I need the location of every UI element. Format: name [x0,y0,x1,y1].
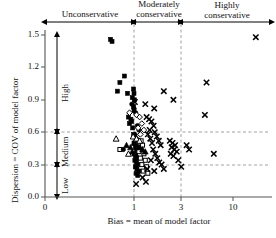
data-point [253,34,258,39]
chart-figure: 1.5 1.2 0.9 0.6 0.3 0.0 0 1 3 10 Bias = … [0,0,276,238]
data-point [118,81,122,85]
data-point [132,87,136,91]
data-points [109,34,259,186]
y-tick-label: 1.5 [20,29,39,39]
zone-label-low: Low [60,178,70,195]
data-point [126,91,130,95]
x-tick-label: 0 [35,202,55,212]
data-point [127,122,131,126]
zone-label-low-wrap: Low [60,0,72,238]
data-point [124,142,130,147]
series-x-marker [132,34,258,186]
y-tick-label: 0.0 [20,191,39,201]
data-point [202,112,207,117]
x-tick-label: 10 [223,202,243,212]
data-point [121,147,125,151]
x-tick-label: 3 [171,202,191,212]
x-tick-label: 1 [124,202,144,212]
data-point [136,173,140,177]
y-tick-label: 0.3 [20,159,39,169]
data-point [171,97,176,102]
data-point [113,136,119,141]
data-point [132,106,136,110]
data-point [110,39,114,43]
data-point [139,121,145,127]
data-point [204,80,209,85]
y-tick-label: 0.6 [20,126,39,136]
data-point [171,153,176,158]
y-tick-label: 0.9 [20,94,39,104]
data-point [161,88,166,93]
data-point [143,101,148,106]
data-point [127,110,133,116]
x-axis [45,197,272,201]
data-point [132,91,136,95]
y-axis-title: Dispersion = COV of model factor [10,78,20,203]
data-point [143,158,147,162]
zone-label-line2: conservative [133,10,185,20]
data-point [152,106,157,111]
data-point [148,158,153,163]
zone-label-moderately-conservative: Moderately conservative [133,0,185,19]
zone-label-highly-conservative: Highly conservative [188,1,266,20]
y-axis [41,30,45,197]
zone-label-line2: conservative [188,11,266,21]
data-point [115,89,119,93]
data-point [152,168,157,173]
data-point [143,179,148,184]
y-tick-label: 1.2 [20,61,39,71]
data-point [211,151,216,156]
data-point [176,158,181,163]
y-axis-title-wrap: Dispersion = COV of model factor [10,0,22,238]
data-point [138,156,142,160]
data-point [131,126,135,130]
data-point [122,74,126,78]
x-axis-title: Bias = mean of model factor [45,216,273,226]
data-point [140,163,144,167]
